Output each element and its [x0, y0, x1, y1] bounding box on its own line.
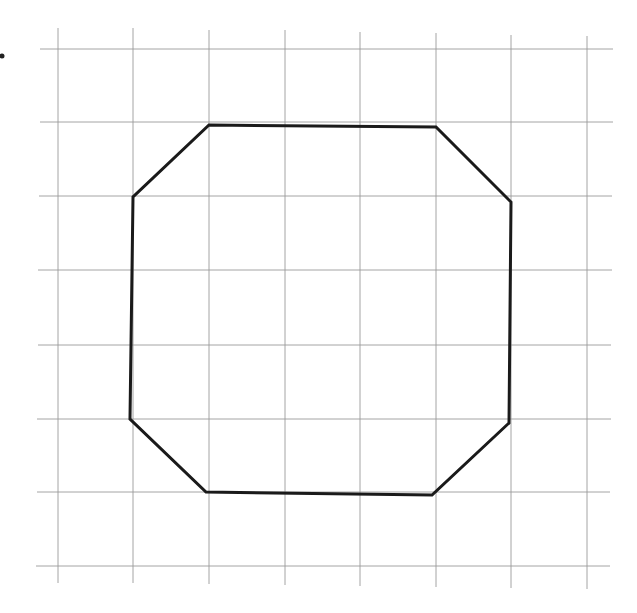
- problem-marker-dot: [0, 54, 5, 59]
- octagon-shape: [130, 125, 511, 495]
- grid: [36, 28, 613, 589]
- grid-diagram: [0, 0, 637, 613]
